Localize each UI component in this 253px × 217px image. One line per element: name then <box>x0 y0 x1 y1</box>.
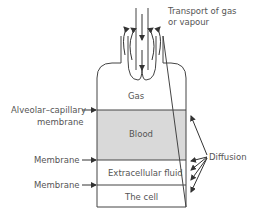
transport-label-line2: or vapour <box>168 17 209 27</box>
transport-label-line1: Transport of gas <box>168 6 237 16</box>
membrane-label-1: Membrane <box>34 155 80 165</box>
alveolar-membrane-label-line2: membrane <box>37 117 84 127</box>
gas-label: Gas <box>128 91 144 101</box>
cell-label: The cell <box>125 192 158 202</box>
membrane-label-2: Membrane <box>34 180 80 190</box>
extracellular-label: Extracellular fluid <box>108 168 183 178</box>
diffusion-label: Diffusion <box>209 152 247 162</box>
alveolar-membrane-label-line1: Alveolar–capillary <box>11 105 86 115</box>
blood-label: Blood <box>129 129 153 139</box>
